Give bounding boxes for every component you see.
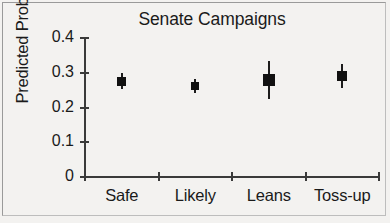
y-axis-tick-label: 0.1 [28, 132, 74, 150]
y-axis-tick [80, 72, 89, 74]
chart-figure: Senate Campaigns Predicted Probability 0… [0, 0, 390, 223]
x-axis-tick [84, 172, 86, 181]
y-axis-tick [80, 107, 89, 109]
y-axis-tick-label: 0 [28, 167, 74, 185]
chart-title: Senate Campaigns [0, 9, 390, 30]
x-axis-tick [305, 172, 307, 181]
x-axis-tick [231, 172, 233, 181]
y-axis-tick-label: 0.3 [28, 63, 74, 81]
data-point-marker [337, 71, 347, 81]
x-axis-tick-label: Likely [175, 186, 216, 205]
x-axis-tick-label: Toss-up [314, 186, 370, 205]
x-axis-tick [378, 172, 380, 181]
data-point-marker [117, 77, 126, 86]
data-point-marker [263, 74, 275, 86]
plot-area: Senate Campaigns Predicted Probability 0… [0, 0, 390, 223]
x-axis-tick-label: Leans [247, 186, 291, 205]
data-point-marker [191, 82, 199, 90]
y-axis-tick-label: 0.4 [28, 28, 74, 46]
y-axis-tick [80, 141, 89, 143]
y-axis-tick-label: 0.2 [28, 98, 74, 116]
y-axis-tick [80, 37, 89, 39]
x-axis-tick-label: Safe [105, 186, 138, 205]
y-axis-label: Predicted Probability [13, 0, 32, 104]
x-axis-tick [158, 172, 160, 181]
